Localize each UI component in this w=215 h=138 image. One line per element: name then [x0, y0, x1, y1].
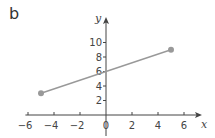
data-point-marker — [168, 47, 174, 53]
axes: −6−4−20246246810xy — [18, 12, 208, 136]
x-tick-label: −2 — [70, 120, 85, 131]
x-tick-label: 0 — [103, 120, 109, 131]
y-tick-label: 8 — [96, 52, 102, 63]
x-tick-label: 6 — [181, 120, 187, 131]
x-tick-label: −6 — [18, 120, 33, 131]
line-chart: −6−4−20246246810xy — [0, 0, 215, 138]
x-axis-label: x — [201, 118, 208, 131]
y-axis-label: y — [94, 12, 102, 25]
y-tick-label: 2 — [96, 95, 102, 106]
x-tick-label: −4 — [44, 120, 59, 131]
x-tick-label: 4 — [155, 120, 161, 131]
y-tick-label: 4 — [96, 81, 102, 92]
y-tick-label: 10 — [89, 37, 102, 48]
data-point-marker — [38, 90, 44, 96]
x-tick-label: 2 — [129, 120, 135, 131]
